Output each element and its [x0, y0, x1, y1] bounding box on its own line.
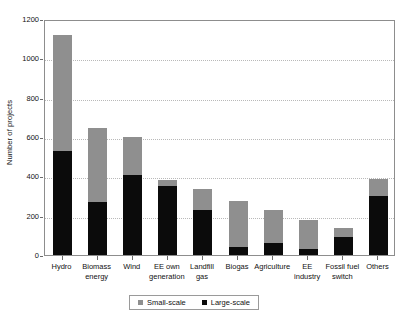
bar-segment-large-scale[interactable]	[334, 237, 353, 255]
y-tick-label: 600	[0, 134, 39, 142]
legend-label: Small-scale	[147, 298, 186, 307]
bar-segment-small-scale[interactable]	[193, 189, 212, 211]
x-tick-mark	[272, 256, 273, 260]
bar-group[interactable]	[53, 35, 72, 255]
x-tick-mark	[97, 256, 98, 260]
bar-segment-large-scale[interactable]	[123, 175, 142, 255]
bar-segment-small-scale[interactable]	[334, 228, 353, 237]
bar-group[interactable]	[88, 128, 107, 255]
bars-layer	[45, 21, 394, 255]
bar-group[interactable]	[369, 179, 388, 255]
bar-segment-large-scale[interactable]	[264, 243, 283, 255]
y-axis-ticks: 020040060080010001200	[0, 20, 44, 256]
x-axis-labels: HydroBiomass energyWindEE own generation…	[44, 262, 395, 294]
bar-segment-large-scale[interactable]	[299, 249, 318, 255]
x-tick-mark	[237, 256, 238, 260]
bar-segment-large-scale[interactable]	[193, 210, 212, 255]
bar-chart: Number of projects 020040060080010001200…	[0, 0, 409, 319]
bar-segment-small-scale[interactable]	[369, 179, 388, 196]
bar-segment-large-scale[interactable]	[88, 202, 107, 255]
bar-segment-small-scale[interactable]	[264, 210, 283, 243]
y-tick-mark	[40, 99, 43, 100]
y-tick-mark	[40, 59, 43, 60]
legend-label: Large-scale	[211, 298, 250, 307]
y-tick-label: 200	[0, 213, 39, 221]
y-tick-label: 800	[0, 95, 39, 103]
bar-group[interactable]	[299, 220, 318, 255]
x-tick-mark	[167, 256, 168, 260]
y-tick-label: 1000	[0, 55, 39, 63]
bar-segment-small-scale[interactable]	[123, 137, 142, 176]
legend-entry[interactable]: Large-scale	[202, 298, 250, 307]
x-tick-mark	[132, 256, 133, 260]
x-tick-label: Others	[356, 262, 399, 272]
bar-group[interactable]	[229, 201, 248, 255]
bar-group[interactable]	[193, 189, 212, 255]
x-tick-mark	[62, 256, 63, 260]
bar-segment-large-scale[interactable]	[229, 247, 248, 255]
bar-segment-small-scale[interactable]	[88, 128, 107, 202]
legend-entry[interactable]: Small-scale	[138, 298, 186, 307]
bar-segment-large-scale[interactable]	[158, 186, 177, 255]
y-tick-label: 1200	[0, 16, 39, 24]
chart-legend: Small-scaleLarge-scale	[129, 295, 259, 310]
bar-group[interactable]	[123, 137, 142, 255]
x-tick-mark	[377, 256, 378, 260]
bar-segment-small-scale[interactable]	[53, 35, 72, 152]
x-tick-mark	[202, 256, 203, 260]
bar-segment-small-scale[interactable]	[299, 220, 318, 249]
y-tick-label: 0	[0, 252, 39, 260]
y-tick-label: 400	[0, 173, 39, 181]
y-tick-mark	[40, 177, 43, 178]
legend-swatch-icon	[202, 300, 207, 305]
y-tick-mark	[40, 138, 43, 139]
plot-area	[44, 20, 395, 256]
x-axis-ticks	[44, 256, 395, 261]
bar-group[interactable]	[334, 228, 353, 255]
bar-group[interactable]	[158, 180, 177, 255]
y-tick-mark	[40, 20, 43, 21]
bar-segment-large-scale[interactable]	[53, 151, 72, 255]
y-tick-mark	[40, 256, 43, 257]
y-tick-mark	[40, 217, 43, 218]
legend-swatch-icon	[138, 300, 143, 305]
bar-group[interactable]	[264, 210, 283, 255]
bar-segment-large-scale[interactable]	[369, 196, 388, 255]
x-tick-mark	[307, 256, 308, 260]
bar-segment-small-scale[interactable]	[229, 201, 248, 247]
x-tick-mark	[342, 256, 343, 260]
